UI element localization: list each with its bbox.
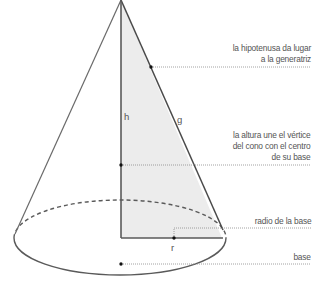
base-dot [119, 262, 122, 265]
annotation-height-line1: la altura une el vértice [233, 129, 311, 140]
annotation-height-line2: del cono con el centro [233, 140, 311, 151]
hypotenuse-dot [149, 65, 152, 68]
annotation-radius-line1: radio de la base [254, 215, 311, 226]
annotation-radius: radio de la base [254, 215, 311, 226]
annotation-base: base [294, 251, 311, 262]
annotation-hypotenuse-line2: a la generatriz [233, 53, 311, 64]
radius-dot [172, 236, 175, 239]
label-h: h [124, 111, 129, 122]
annotation-base-line1: base [294, 251, 311, 262]
annotation-hypotenuse-line1: la hipotenusa da lugar [233, 42, 311, 53]
base-ellipse-front [14, 238, 226, 275]
annotation-hypotenuse: la hipotenusa da lugar a la generatriz [233, 42, 311, 64]
height-dot [119, 163, 122, 166]
annotation-height-line3: de su base [233, 151, 311, 162]
annotation-height: la altura une el vértice del cono con el… [233, 129, 311, 162]
label-g: g [177, 114, 182, 125]
cone-left-side [15, 0, 121, 234]
label-r: r [171, 242, 174, 253]
